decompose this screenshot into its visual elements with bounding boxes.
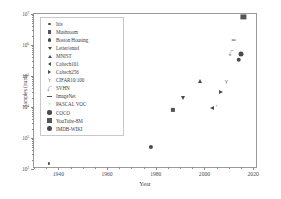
y-tick-minor (32, 116, 34, 117)
legend-item[interactable]: Caltech256 (43, 68, 120, 76)
marker-hline (231, 40, 236, 41)
x-tick-minor (180, 167, 181, 169)
x-tick-minor (71, 167, 72, 169)
y-tick-label: 104 (22, 104, 29, 111)
marker-tri-down (48, 47, 52, 50)
marker-tri-right (48, 70, 51, 74)
marker-circle (149, 145, 153, 149)
marker-circle (48, 38, 52, 42)
data-point (238, 51, 243, 56)
y-tick-minor (32, 129, 34, 130)
legend-marker: ⤴ (43, 84, 56, 92)
y-tick-mark (31, 14, 34, 15)
y-tick-label: 103 (22, 135, 29, 142)
legend-item[interactable]: Mushroom (43, 28, 120, 36)
data-point (198, 79, 202, 83)
marker-tri-up (198, 79, 202, 83)
y-tick-minor (32, 85, 34, 86)
legend-item[interactable]: IMDB-WIKI (43, 125, 120, 133)
legend-item[interactable]: ⤴SVHN (43, 84, 120, 92)
legend-item[interactable]: YouTube-8M (43, 117, 120, 125)
marker-tri-up (48, 55, 52, 58)
y-tick-minor (32, 92, 34, 93)
y-tick-minor (32, 57, 34, 58)
marker-tri-right (219, 90, 223, 94)
legend-marker (43, 60, 56, 68)
y-tick-minor (32, 17, 34, 18)
x-tick-mark (58, 167, 59, 170)
legend-item[interactable]: Letter/enud (43, 44, 120, 52)
data-point (236, 58, 241, 63)
marker-tri-thin: ⤴ (229, 49, 234, 54)
y-tick-minor (32, 81, 34, 82)
y-tick-minor (32, 52, 34, 53)
legend-item[interactable]: YCIFAR10/100 (43, 76, 120, 84)
x-tick-minor (83, 167, 84, 169)
marker-square-filled (241, 15, 246, 20)
legend-marker (43, 125, 56, 133)
legend-marker (43, 109, 56, 117)
legend-marker (43, 92, 56, 100)
x-axis-title: Year (33, 180, 257, 187)
legend-marker (43, 117, 56, 125)
legend-item[interactable]: Iris (43, 20, 120, 28)
y-tick-minor (32, 147, 34, 148)
x-tick-mark (107, 167, 108, 170)
y-tick-label: 102 (22, 166, 29, 173)
y-tick-mark (31, 76, 34, 77)
x-tick-minor (131, 167, 132, 169)
legend-marker (43, 68, 56, 76)
marker-circle-filled (236, 58, 241, 63)
legend-marker (43, 52, 56, 60)
x-tick-minor (168, 167, 169, 169)
legend-item[interactable]: ›PASCAL VOC (43, 100, 120, 108)
marker-circle-filled (47, 110, 51, 114)
y-tick-minor (32, 30, 34, 31)
y-tick-minor (32, 26, 34, 27)
legend-marker: Y (43, 76, 56, 84)
marker-caret-right: › (216, 103, 218, 108)
legend-item[interactable]: MNIST (43, 52, 120, 60)
legend-label: SVHN (56, 85, 70, 91)
legend-item[interactable]: ImageNet (43, 92, 120, 100)
legend-label: COCO (56, 110, 70, 116)
y-tick-mark (31, 45, 34, 46)
data-point (181, 96, 185, 100)
legend-item[interactable]: Boston Housing (43, 36, 120, 44)
y-tick-minor (32, 23, 34, 24)
y-tick-minor (32, 21, 34, 22)
marker-hline (47, 96, 51, 97)
x-tick-minor (192, 167, 193, 169)
marker-tri-y: Y (48, 78, 51, 83)
x-tick-mark (253, 167, 254, 170)
legend-label: MNIST (56, 53, 72, 59)
marker-square (171, 108, 175, 112)
y-tick-mark (31, 107, 34, 108)
marker-tri-left (210, 106, 214, 110)
data-point: Y (225, 80, 228, 85)
marker-dot (48, 23, 50, 25)
y-tick-minor (32, 108, 34, 109)
legend-marker (43, 36, 56, 44)
data-point (171, 108, 175, 112)
marker-tri-thin: ⤴ (47, 86, 52, 91)
y-tick-minor (32, 143, 34, 144)
y-tick-minor (32, 54, 34, 55)
y-tick-minor (32, 67, 34, 68)
marker-caret-right: › (49, 102, 51, 107)
y-tick-minor (32, 150, 34, 151)
y-tick-mark (31, 138, 34, 139)
x-tick-label: 1940 (53, 171, 64, 177)
x-tick-minor (229, 167, 230, 169)
legend-marker (43, 44, 56, 52)
legend-item[interactable]: COCO (43, 109, 120, 117)
legend-label: Letter/enud (56, 45, 79, 51)
y-tick-minor (32, 79, 34, 80)
y-tick-minor (32, 15, 34, 16)
marker-square-filled (47, 118, 52, 123)
legend-item[interactable]: Caltech101 (43, 60, 120, 68)
y-tick-minor (32, 19, 34, 20)
legend-marker (43, 20, 56, 28)
y-tick-minor (32, 110, 34, 111)
y-tick-minor (32, 98, 34, 99)
